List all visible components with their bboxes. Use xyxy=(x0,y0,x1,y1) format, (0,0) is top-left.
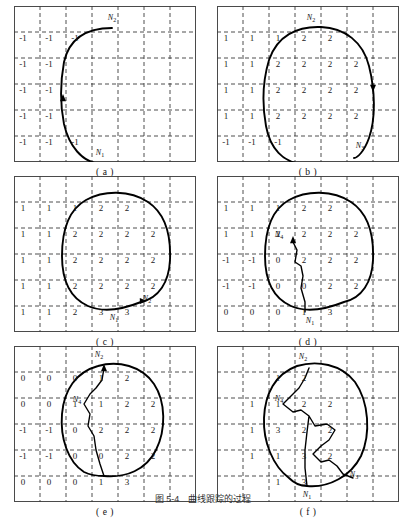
cell-value: 2 xyxy=(354,282,359,291)
cell-value: 1 xyxy=(224,34,229,43)
cell-value: 2 xyxy=(151,230,156,239)
cell-value: 3 xyxy=(125,478,130,487)
cell-value: 1 xyxy=(250,34,255,43)
cell-value: -1 xyxy=(45,452,53,461)
figure-caption: 图 5-4 曲线跟踪的过程 xyxy=(0,492,406,503)
cell-value: -1 xyxy=(274,138,282,147)
node-label-N3: N3 xyxy=(356,142,364,153)
cell-value: 0 xyxy=(302,282,307,291)
node-label-N2: N2 xyxy=(307,14,315,25)
cell-value: -1 xyxy=(222,282,230,291)
cell-value: 2 xyxy=(302,204,307,213)
cell-value: 1 xyxy=(73,204,78,213)
cell-value: -1 xyxy=(71,34,79,43)
cell-value: 2 xyxy=(328,204,333,213)
cell-value: 3 xyxy=(302,478,307,487)
cell-value: 1 xyxy=(224,204,229,213)
cell-value: 3 xyxy=(125,308,130,317)
cell-value: 0 xyxy=(21,374,26,383)
cell-value: 1 xyxy=(250,230,255,239)
cell-value: 1 xyxy=(250,112,255,121)
cell-value: -1 xyxy=(45,60,53,69)
cell-value: 2 xyxy=(125,230,130,239)
node-label-N1: N1 xyxy=(306,317,314,328)
cell-value: 1 xyxy=(224,230,229,239)
cell-value: 1 xyxy=(99,478,104,487)
cell-value: 0 xyxy=(47,374,52,383)
cell-value: -1 xyxy=(45,34,53,43)
cell-value: 1 xyxy=(224,112,229,121)
cell-value: 1 xyxy=(21,230,26,239)
cell-value: 0 xyxy=(73,452,78,461)
cell-value: 2 xyxy=(125,400,130,409)
cell-value: 0 xyxy=(21,400,26,409)
cell-value: -1 xyxy=(222,138,230,147)
cell-value: 0 xyxy=(47,478,52,487)
cell-value: 2 xyxy=(302,256,307,265)
cell-value: 0 xyxy=(73,426,78,435)
cell-value: -1 xyxy=(19,60,27,69)
cell-value: 1 xyxy=(250,204,255,213)
cell-value: 2 xyxy=(99,256,104,265)
cell-value: 1 xyxy=(250,400,255,409)
node-label-N4: N4 xyxy=(275,395,283,406)
cell-value: -1 xyxy=(19,138,27,147)
cell-value: -1 xyxy=(222,256,230,265)
cell-value: 3 xyxy=(276,426,281,435)
cell-value: 1 xyxy=(21,256,26,265)
cell-value: 2 xyxy=(354,256,359,265)
panel-d: 11122112222-1-10222-1-1002200013N4N1( d … xyxy=(217,176,399,352)
cell-value: 1 xyxy=(250,426,255,435)
cell-value: 1 xyxy=(276,478,281,487)
cell-value: 1 xyxy=(276,34,281,43)
node-label-N2: N2 xyxy=(143,295,151,306)
grid-lines-e xyxy=(14,346,196,502)
cell-value: 2 xyxy=(328,256,333,265)
cell-value: -1 xyxy=(71,138,79,147)
cell-value: 2 xyxy=(276,112,281,121)
cell-value: 3 xyxy=(99,308,104,317)
cell-value: 2 xyxy=(99,282,104,291)
cell-value: 1 xyxy=(276,204,281,213)
cell-value: 0 xyxy=(276,282,281,291)
grid-lines-c xyxy=(14,176,196,332)
cell-value: -1 xyxy=(248,256,256,265)
cell-value: 1 xyxy=(250,86,255,95)
node-label-N2: N2 xyxy=(108,14,116,25)
cell-value: 1 xyxy=(47,256,52,265)
cell-value: 2 xyxy=(151,426,156,435)
cell-value: 3 xyxy=(302,452,307,461)
cell-value: 1 xyxy=(250,452,255,461)
cell-value: 2 xyxy=(328,452,333,461)
cell-value: 1 xyxy=(250,60,255,69)
cell-value: 2 xyxy=(302,112,307,121)
cell-value: 2 xyxy=(276,60,281,69)
grid-lines-d xyxy=(217,176,399,332)
cell-value: 2 xyxy=(354,230,359,239)
cell-value: 0 xyxy=(276,308,281,317)
cell-value: 2 xyxy=(328,426,333,435)
cell-value: 2 xyxy=(354,112,359,121)
cell-value: 2 xyxy=(302,426,307,435)
cell-value: 1 xyxy=(99,374,104,383)
cell-value: 2 xyxy=(125,282,130,291)
node-label-N1: N1 xyxy=(110,314,118,325)
cell-value: -1 xyxy=(45,86,53,95)
cell-value: 2 xyxy=(99,204,104,213)
cell-value: 0 xyxy=(73,374,78,383)
cell-value: -1 xyxy=(19,426,27,435)
cell-value: -1 xyxy=(45,112,53,121)
cell-value: 2 xyxy=(125,452,130,461)
cell-value: 0 xyxy=(21,478,26,487)
cell-value: 2 xyxy=(99,230,104,239)
cell-value: 1 xyxy=(21,282,26,291)
cell-value: 3 xyxy=(328,308,333,317)
cell-value: -1 xyxy=(19,112,27,121)
cell-value: 0 xyxy=(99,452,104,461)
cell-value: 1 xyxy=(224,86,229,95)
cell-value: 1 xyxy=(224,60,229,69)
cell-value: 2 xyxy=(73,256,78,265)
cell-value: 2 xyxy=(151,452,156,461)
cell-value: 2 xyxy=(73,308,78,317)
cell-value: 2 xyxy=(125,256,130,265)
